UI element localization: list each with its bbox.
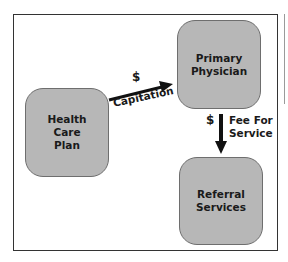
fee-for-service-label: Fee For Service (229, 114, 273, 140)
primary-physician-label: Primary Physician (191, 52, 247, 78)
health-care-plan-label: Health Care Plan (47, 113, 86, 152)
health-care-plan-node: Health Care Plan (25, 88, 109, 177)
capitation-dollar-symbol: $ (132, 71, 140, 84)
primary-physician-node: Primary Physician (177, 20, 261, 109)
referral-services-node: Referral Services (179, 157, 263, 245)
fee-for-service-arrow (215, 114, 227, 154)
referral-services-label: Referral Services (196, 188, 246, 214)
fee-for-service-dollar-symbol: $ (206, 114, 214, 127)
